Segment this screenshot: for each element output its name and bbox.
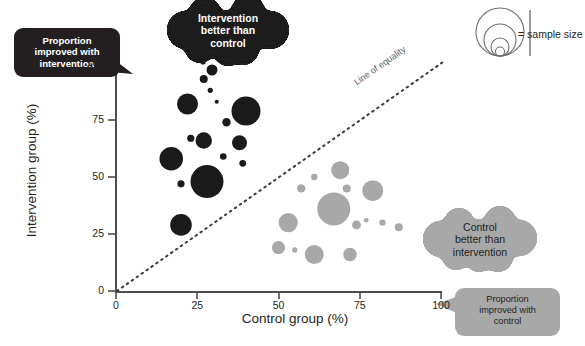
bubble-point bbox=[187, 135, 194, 142]
callout-bottom-right-shape bbox=[436, 288, 560, 336]
chart-figure: Proportion improved with intervention In… bbox=[0, 0, 585, 346]
bubble-point bbox=[279, 213, 298, 232]
callout-left-shape bbox=[14, 28, 133, 77]
callout-top-tail-dot2 bbox=[200, 59, 205, 64]
bubble-series-0 bbox=[159, 75, 260, 236]
bubble-point bbox=[191, 165, 224, 198]
bubble-point bbox=[343, 248, 357, 262]
bubble-point bbox=[196, 132, 212, 148]
bubble-point bbox=[364, 218, 369, 223]
x-tick-25: 25 bbox=[183, 299, 211, 311]
bubble-point bbox=[297, 184, 305, 192]
bubble-point bbox=[317, 192, 350, 225]
x-tick-75: 75 bbox=[346, 299, 374, 311]
bubble-point bbox=[379, 219, 385, 225]
x-tick-0: 0 bbox=[102, 299, 130, 311]
y-tick-0: 0 bbox=[74, 284, 104, 296]
bubble-point bbox=[232, 135, 247, 150]
callout-top-tail-dot bbox=[207, 65, 218, 76]
bubble-point bbox=[232, 96, 261, 125]
legend-label: = sample size bbox=[518, 28, 583, 40]
legend-sample-size-icon bbox=[476, 8, 524, 56]
bubble-point bbox=[220, 153, 227, 160]
bubble-point bbox=[395, 223, 403, 231]
bubble-point bbox=[170, 214, 192, 236]
callout-top-shape bbox=[167, 0, 289, 66]
bubble-point bbox=[208, 88, 213, 93]
bubble-point bbox=[362, 180, 383, 201]
line-of-equality bbox=[117, 62, 443, 291]
bubble-point bbox=[177, 180, 184, 187]
bubble-point bbox=[331, 161, 349, 179]
bubble-point bbox=[343, 184, 351, 192]
bubble-point bbox=[311, 174, 317, 180]
y-tick-75: 75 bbox=[74, 113, 104, 125]
callout-right-shape bbox=[423, 206, 537, 272]
bubble-point bbox=[200, 75, 208, 83]
y-tick-50: 50 bbox=[74, 170, 104, 182]
x-axis-title: Control group (%) bbox=[205, 311, 385, 326]
bubble-point bbox=[239, 160, 246, 167]
bubble-point bbox=[222, 118, 230, 126]
bubble-point bbox=[177, 94, 198, 115]
bubble-point bbox=[159, 147, 183, 171]
bubble-point bbox=[215, 100, 219, 104]
bubble-series-1 bbox=[272, 161, 403, 264]
bubble-point bbox=[272, 241, 285, 254]
y-tick-100: 100 bbox=[74, 56, 104, 68]
bubble-point bbox=[292, 247, 297, 252]
x-tick-50: 50 bbox=[265, 299, 293, 311]
y-axis-title: Intervention group (%) bbox=[24, 86, 39, 256]
bubble-point bbox=[305, 245, 324, 264]
x-tick-100: 100 bbox=[427, 299, 455, 311]
y-tick-25: 25 bbox=[74, 227, 104, 239]
bubble-point bbox=[352, 220, 361, 229]
